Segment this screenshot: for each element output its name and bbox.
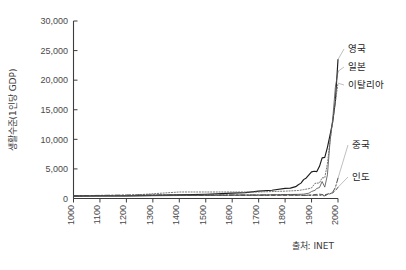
series-label-japan: 일본 [348, 61, 366, 72]
x-tick-label: 2000 [330, 205, 340, 225]
x-tick-label: 1700 [251, 205, 261, 225]
x-tick-label: 1900 [304, 205, 314, 225]
series-label-uk: 영국 [348, 43, 366, 54]
x-tick-label: 1000 [66, 205, 76, 225]
y-tick-label: 15,000 [40, 105, 68, 115]
x-tick-label: 1800 [277, 205, 287, 225]
y-tick-label: 10,000 [40, 135, 68, 145]
series-label-italy: 이탈리아 [348, 79, 384, 90]
y-tick-label: 5,000 [45, 164, 68, 174]
x-tick-label: 1600 [224, 205, 234, 225]
y-tick-label: 25,000 [40, 46, 68, 56]
x-tick-label: 1200 [118, 205, 128, 225]
x-tick-label: 1300 [145, 205, 155, 225]
series-label-china: 중국 [352, 139, 370, 150]
source-attribution: 출처: INET [292, 240, 335, 251]
y-tick-label: 20,000 [40, 75, 68, 85]
series-label-text: 인도 [352, 171, 370, 182]
x-tick-label: 1500 [198, 205, 208, 225]
y-axis-title: 생활수준(1인당 GDP) [7, 69, 18, 152]
y-tick-label: 30,000 [40, 16, 68, 26]
series-label-text: 일본 [348, 61, 366, 72]
y-tick-label: 0 [63, 194, 68, 204]
chart-container: 05,00010,00015,00020,00025,00030,000 100… [0, 0, 406, 270]
series-label-text: 영국 [348, 43, 366, 54]
series-label-text: 이탈리아 [348, 79, 384, 90]
x-tick-label: 1400 [171, 205, 181, 225]
x-tick-label: 1100 [92, 205, 102, 224]
series-label-text: 중국 [352, 139, 370, 150]
series-label-india: 인도 [352, 171, 370, 182]
gdp-line-chart: 05,00010,00015,00020,00025,00030,000 100… [0, 0, 406, 270]
